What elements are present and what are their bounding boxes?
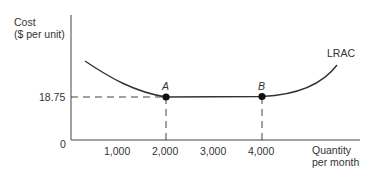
y-axis-label-line1: Cost <box>14 16 36 28</box>
point-a-marker <box>162 93 169 100</box>
y-axis-label-line2: ($ per unit) <box>14 28 65 40</box>
lrac-curve <box>85 61 337 97</box>
lrac-label: LRAC <box>327 47 355 59</box>
x-tick-1000: 1,000 <box>104 145 130 157</box>
point-b-label: B <box>258 80 265 92</box>
y-tick-18-75: 18.75 <box>39 91 65 103</box>
x-tick-4000: 4,000 <box>248 145 274 157</box>
point-b-marker <box>258 93 265 100</box>
x-tick-2000: 2,000 <box>152 145 178 157</box>
x-axis-label-line2: per month <box>312 156 359 168</box>
origin-label: 0 <box>60 138 66 150</box>
point-a-label: A <box>162 80 169 92</box>
x-axis-label-line1: Quantity <box>312 144 351 156</box>
x-tick-3000: 3,000 <box>200 145 226 157</box>
